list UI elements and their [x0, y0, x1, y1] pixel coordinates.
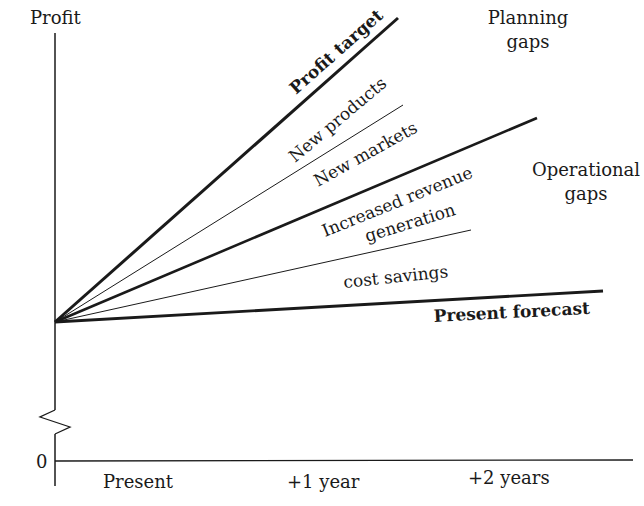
- axis-break-icon: [40, 410, 70, 434]
- operational-gaps-line1: Operational: [532, 159, 640, 180]
- x-tick-plus-2-years: +2 years: [468, 467, 550, 488]
- planning-gaps-line2: gaps: [506, 31, 549, 52]
- label-cost-savings: cost savings: [342, 261, 449, 292]
- operational-gaps-line2: gaps: [564, 183, 607, 204]
- y-axis-label: Profit: [30, 7, 82, 28]
- x-tick-present: Present: [103, 471, 174, 492]
- gap-analysis-diagram: Profit 0 Present +1 year +2 years Profit…: [0, 0, 644, 506]
- x-tick-plus-1-year: +1 year: [287, 471, 360, 492]
- label-present-forecast: Present forecast: [433, 298, 590, 326]
- x-axis: [55, 460, 633, 461]
- planning-gaps-line1: Planning: [488, 7, 569, 28]
- zero-label: 0: [36, 451, 47, 472]
